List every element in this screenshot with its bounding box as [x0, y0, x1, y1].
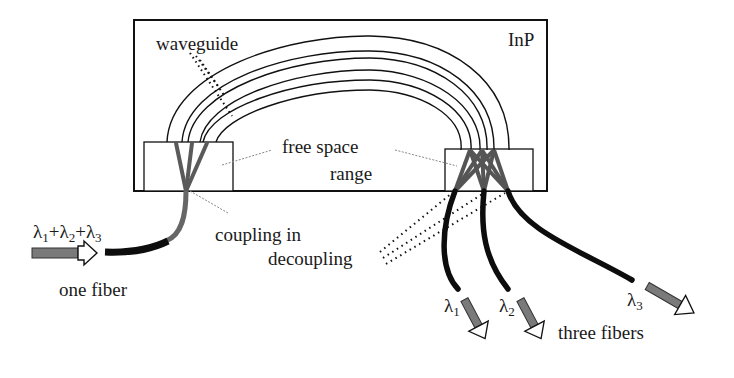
output-lambda-2-index: 2 [508, 304, 515, 319]
label-output-lambda-3: λ3 [627, 290, 643, 310]
output-lambda-3-index: 3 [636, 298, 643, 313]
plus-1: + [49, 221, 60, 242]
lambda-2: λ [59, 221, 68, 242]
output-lambda-3-symbol: λ [627, 289, 636, 310]
label-one-fiber: one fiber [59, 280, 127, 300]
lambda-3-index: 3 [95, 230, 102, 245]
output-lambda-2-symbol: λ [499, 295, 508, 316]
label-three-fibers: three fibers [558, 323, 644, 343]
output-arrow-1 [455, 294, 495, 343]
lambda-3: λ [86, 221, 95, 242]
label-decoupling: decoupling [268, 249, 352, 269]
output-arrow-2 [511, 294, 551, 343]
output-fibers [444, 191, 632, 289]
label-coupling-in: coupling in [215, 225, 301, 245]
label-input-wavelengths: λ1+λ2+λ3 [33, 222, 102, 242]
output-arrow-3 [642, 276, 700, 322]
label-waveguide: waveguide [156, 34, 238, 54]
label-output-lambda-2: λ2 [499, 296, 515, 316]
lambda-1: λ [33, 221, 42, 242]
label-free-space: free space [282, 137, 358, 157]
input-fiber [105, 241, 168, 252]
label-inp: InP [508, 30, 534, 50]
label-range-text: range [330, 164, 372, 184]
label-output-lambda-1: λ1 [444, 296, 460, 316]
output-lambda-1-index: 1 [453, 304, 460, 319]
plus-2: + [75, 221, 86, 242]
input-fiber-gray [166, 191, 186, 241]
output-lambda-1-symbol: λ [444, 295, 453, 316]
